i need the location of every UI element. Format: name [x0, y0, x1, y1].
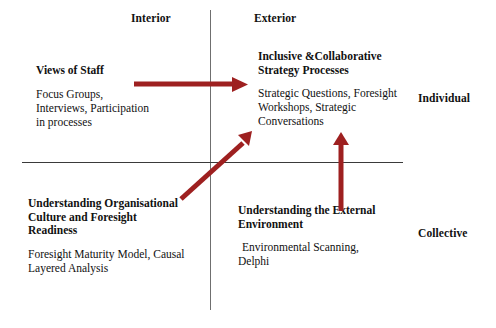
row-label-individual: Individual: [418, 92, 470, 104]
diagram-canvas: Interior Exterior Individual Collective …: [0, 0, 496, 328]
quadrant-title-strategy-processes: Inclusive &Collaborative Strategy Proces…: [258, 50, 410, 77]
column-label-exterior: Exterior: [254, 12, 296, 24]
quadrant-interior-collective: Understanding Organisational Culture and…: [28, 197, 200, 275]
arrow-environment-to-strategy-icon: [333, 132, 349, 211]
quadrant-title-views-of-staff: Views of Staff: [36, 64, 196, 78]
arrow-layer: [0, 0, 496, 328]
quadrant-body-external-environment: Environmental Scanning, Delphi: [238, 240, 398, 268]
vertical-axis-line: [210, 10, 211, 310]
horizontal-axis-line: [22, 162, 403, 163]
quadrant-body-views-of-staff: Focus Groups, Interviews, Participation …: [36, 87, 196, 129]
row-label-collective: Collective: [418, 227, 468, 239]
quadrant-title-external-environment: Understanding the External Environment: [238, 204, 398, 231]
column-label-interior: Interior: [131, 12, 171, 24]
quadrant-exterior-collective: Understanding the External Environment E…: [238, 204, 398, 268]
quadrant-body-organisational-culture: Foresight Maturity Model, Causal Layered…: [28, 247, 200, 275]
quadrant-body-strategy-processes: Strategic Questions, Foresight Workshops…: [258, 86, 410, 128]
quadrant-interior-individual: Views of Staff Focus Groups, Interviews,…: [36, 64, 196, 129]
arrow-culture-to-strategy-icon: [181, 131, 252, 199]
quadrant-exterior-individual: Inclusive &Collaborative Strategy Proces…: [258, 50, 410, 128]
quadrant-title-organisational-culture: Understanding Organisational Culture and…: [28, 197, 200, 238]
